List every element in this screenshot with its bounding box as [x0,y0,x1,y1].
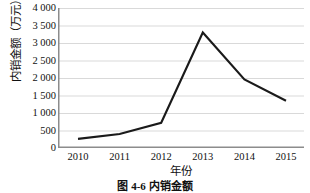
plot-area [58,8,304,148]
chart-svg [58,8,304,148]
x-axis-tick-label: 2010 [55,150,101,163]
x-axis-tick-label: 2012 [138,150,184,163]
y-axis-tick-label: 1 500 [18,91,56,101]
figure-caption: 图 4-6 内销金额 [0,180,310,193]
x-axis-title: 年份 [58,165,304,178]
y-axis-tick-label: 4 000 [18,3,56,13]
y-axis-tick-label: 3 000 [18,38,56,48]
x-axis-tick-labels: 201020112012201320142015 [58,150,304,166]
gridlines [58,9,304,132]
y-axis-tick-label: 2 000 [18,73,56,83]
figure-line-chart: 内销金额（万元） 4 0003 5003 0002 5002 0001 5001… [0,0,310,193]
x-axis-tick-label: 2014 [221,150,267,163]
y-axis-tick-label: 1 000 [18,108,56,118]
y-axis-tick-labels: 4 0003 5003 0002 5002 0001 5001 0005000 [18,8,56,148]
data-series-line [78,33,286,139]
x-axis-tick-label: 2013 [180,150,226,163]
y-axis-tick-label: 2 500 [18,56,56,66]
y-axis-tick-label: 0 [18,143,56,153]
x-axis-tick-label: 2011 [97,150,143,163]
y-axis-tick-label: 500 [18,126,56,136]
y-axis-tick-label: 3 500 [18,21,56,31]
x-axis-tick-label: 2015 [263,150,309,163]
